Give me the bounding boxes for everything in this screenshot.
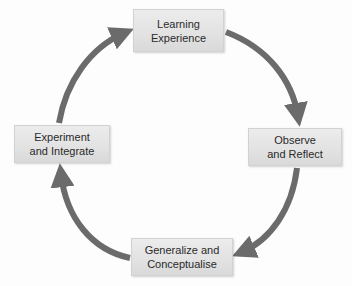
- arrow-generalize-to-experiment: [61, 174, 130, 258]
- node-experiment-integrate: Experiment and Integrate: [14, 125, 110, 163]
- node-label-line2: and Integrate: [30, 144, 95, 158]
- diagram-canvas: Learning Experience Observe and Reflect …: [0, 0, 352, 286]
- node-label-line1: Learning: [157, 17, 200, 31]
- node-label-line1: Generalize and: [145, 243, 220, 257]
- node-learning-experience: Learning Experience: [133, 9, 224, 52]
- arrow-observe-to-generalize: [242, 168, 297, 252]
- arrow-learning-to-observe: [226, 32, 298, 116]
- node-label-line1: Experiment: [34, 130, 90, 144]
- node-label-line2: Experience: [151, 31, 206, 45]
- node-generalize-conceptualise: Generalize and Conceptualise: [131, 238, 233, 276]
- node-label-line2: and Reflect: [267, 147, 323, 161]
- node-label-line1: Observe: [274, 133, 316, 147]
- node-observe-reflect: Observe and Reflect: [248, 128, 342, 166]
- arrow-experiment-to-learning: [59, 33, 124, 123]
- node-label-line2: Conceptualise: [147, 257, 217, 271]
